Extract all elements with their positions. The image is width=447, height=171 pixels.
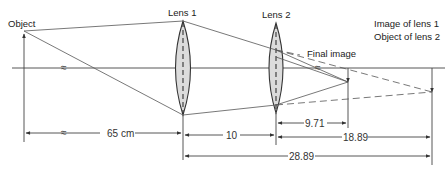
dim-65-label: 65 cm (107, 128, 134, 139)
lens-2 (269, 23, 283, 113)
ray-2-after-lens-1 (183, 105, 276, 115)
intermediate-label-line-1: Image of lens 1 (374, 18, 439, 29)
lens-1 (176, 21, 191, 115)
dim-28-89-label: 28.89 (289, 151, 314, 162)
ray-2-virtual-extension (276, 92, 432, 105)
dimension-lens-1-to-intermediate-image: 28.89 (185, 151, 430, 162)
lens-2-label: Lens 2 (262, 9, 291, 20)
dimension-object-to-lens-1: ≈ 65 cm (26, 127, 181, 139)
dim-9-71-label: 9.71 (305, 118, 325, 129)
ray-1-incident (24, 21, 183, 31)
two-lens-diagram: ≈ ≈ Object Lens 1 Lens 2 Final image Ima… (0, 0, 447, 171)
final-image-label: Final image (307, 48, 356, 59)
ray-3-after-lens-2 (276, 57, 348, 82)
dimension-lens-2-to-intermediate-image: 18.89 (278, 132, 430, 143)
ray-2-incident (24, 31, 183, 115)
lens-1-label: Lens 1 (168, 7, 197, 18)
dimension-lens-2-to-final-image: 9.71 (278, 118, 346, 129)
object-label: Object (8, 18, 36, 29)
axis-break-1: ≈ (61, 62, 67, 73)
dimension-lens-1-to-lens-2: 10 (185, 130, 274, 141)
intermediate-label-line-2: Object of lens 2 (374, 31, 440, 42)
dim-break: ≈ (61, 127, 67, 138)
dim-10-label: 10 (226, 130, 238, 141)
ray-2-after-lens-2 (276, 82, 348, 105)
dim-18-89-label: 18.89 (343, 132, 368, 143)
lens-1-body (176, 21, 191, 115)
ray-1-after-lens-1 (183, 21, 276, 50)
